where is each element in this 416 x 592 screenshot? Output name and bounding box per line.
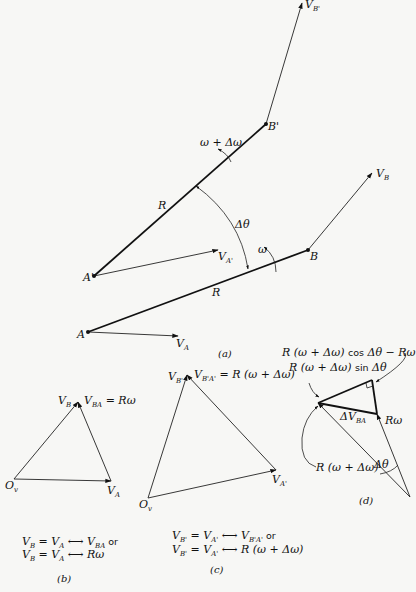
label-c-vba: VB'A' = R (ω + Δω) bbox=[194, 368, 295, 383]
equation-c-line2: VB' = VA' ⟷ R (ω + Δω) bbox=[172, 543, 303, 558]
vector-v-a-polygon bbox=[14, 479, 111, 481]
vector-v-ba-polygon bbox=[78, 402, 111, 481]
caption-a: (a) bbox=[218, 348, 232, 359]
label-b-prime: B' bbox=[267, 120, 279, 133]
label-c-origin: Ov bbox=[139, 498, 152, 513]
label-v-a: VA bbox=[176, 337, 189, 352]
label-v-b-prime: VB' bbox=[305, 0, 320, 13]
part-d: R (ω + Δω) cos Δθ − Rω R (ω + Δω) sin Δθ… bbox=[281, 346, 416, 506]
equation-c-line1: VB' = VA' ⟷ VB'A' or bbox=[172, 529, 276, 544]
caption-c: (c) bbox=[210, 564, 224, 575]
caption-d: (d) bbox=[359, 495, 373, 506]
caption-b: (b) bbox=[57, 573, 71, 584]
label-a: A bbox=[76, 328, 85, 341]
label-v-b: VB bbox=[376, 167, 389, 182]
part-b: VB VBA = Rω Ov VA VB = VA ⟷ VBA or VB = … bbox=[5, 394, 136, 584]
vector-v-a bbox=[88, 332, 178, 336]
vector-v-a-prime bbox=[94, 250, 218, 276]
vector-v-b-prime-a-prime-polygon bbox=[187, 375, 276, 470]
label-c-apex: VB' bbox=[168, 370, 183, 385]
label-omega-plus-delta-omega: ω + Δω bbox=[200, 136, 242, 149]
label-r-upper: R bbox=[157, 199, 166, 212]
part-a: ω + Δω B' VB' VB R Δθ ω B VA' A' R A VA … bbox=[76, 0, 389, 359]
equation-b-line2: VB = VA ⟷ Rω bbox=[22, 548, 104, 563]
label-r-omega-plus: R (ω + Δω) bbox=[315, 461, 378, 474]
label-r-omega: Rω bbox=[384, 414, 402, 427]
label-delta-theta-d: Δθ bbox=[373, 458, 389, 471]
label-a-prime: A' bbox=[82, 271, 94, 284]
vector-v-b bbox=[308, 173, 372, 250]
vector-v-a-prime-polygon bbox=[148, 470, 276, 498]
vector-v-b-polygon bbox=[14, 402, 78, 479]
leader-sin bbox=[309, 383, 319, 397]
leader-r-omega-plus bbox=[302, 406, 318, 467]
label-cos-component: R (ω + Δω) cos Δθ − Rω bbox=[281, 346, 416, 359]
label-v-a-prime: VA' bbox=[218, 250, 233, 265]
vector-v-b-prime-polygon bbox=[148, 375, 187, 498]
kinematics-diagram: ω + Δω B' VB' VB R Δθ ω B VA' A' R A VA … bbox=[0, 0, 416, 592]
label-delta-v-ba: ΔVBA bbox=[339, 410, 366, 425]
label-b-va: VA bbox=[107, 484, 120, 499]
component-cos bbox=[372, 380, 377, 414]
label-omega: ω bbox=[258, 243, 267, 256]
part-c: VB' VB'A' = R (ω + Δω) Ov VA' VB' = VA' … bbox=[139, 368, 303, 575]
label-b-apex: VB bbox=[58, 394, 71, 409]
label-c-va-prime: VA' bbox=[272, 473, 287, 488]
label-r-lower: R bbox=[211, 286, 220, 299]
label-b-origin: Ov bbox=[5, 479, 18, 494]
component-sin bbox=[318, 380, 372, 403]
label-b: B bbox=[309, 250, 318, 263]
point-a bbox=[86, 330, 90, 334]
label-b-vba: VBA = Rω bbox=[84, 394, 136, 409]
vector-v-b-prime bbox=[266, 3, 302, 124]
label-delta-theta: Δθ bbox=[234, 218, 250, 231]
label-sin-component: R (ω + Δω) sin Δθ bbox=[288, 361, 387, 374]
